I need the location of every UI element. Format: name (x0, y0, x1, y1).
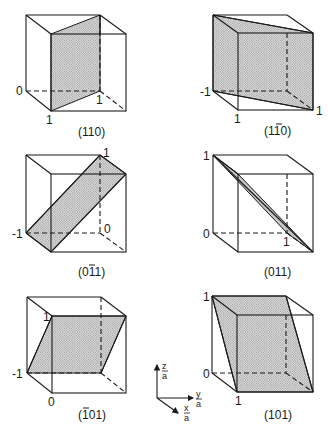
intercept-label: 1 (43, 310, 50, 324)
intercept-label: 1 (203, 290, 210, 304)
intercept-label: -1 (200, 85, 211, 99)
intercept-label: 0 (16, 84, 23, 98)
miller-caption: (011) (264, 265, 291, 279)
intercept-label: 1 (283, 235, 290, 249)
miller-caption: (101) (78, 408, 106, 422)
intercept-label: 1 (103, 146, 110, 160)
plane-bar101 (27, 316, 126, 373)
intercept-label: 1 (96, 93, 103, 107)
plane-110 (51, 15, 100, 111)
panel-101: 1 0 1 (101) (203, 290, 313, 422)
intercept-label: 1 (235, 394, 242, 408)
panel-011: 1 0 1 (011) (203, 149, 313, 279)
panel-1bar10: -1 1 1 (110) (200, 15, 323, 138)
intercept-label: 0 (48, 395, 55, 409)
miller-indices-diagram: 0 1 1 (110) -1 1 1 (110) (0, 0, 328, 435)
x-axis-denominator: a (184, 413, 189, 423)
intercept-label: 1 (234, 112, 241, 126)
intercept-label: 0 (203, 227, 210, 241)
panel-0bar11: 1 -1 0 (011) (12, 146, 126, 279)
plane-101 (212, 296, 313, 392)
z-axis-label: z (162, 361, 167, 371)
miller-caption: (110) (264, 124, 291, 138)
intercept-label: 1 (316, 104, 323, 118)
intercept-label: 0 (203, 367, 210, 381)
miller-caption: (101) (264, 408, 292, 422)
intercept-label: -1 (12, 227, 23, 241)
axes-legend: z a y a x a (157, 361, 202, 423)
cube-edges (213, 155, 313, 252)
plane-1bar10 (213, 15, 313, 110)
plane-0bar11 (26, 155, 126, 252)
y-axis-denominator: a (196, 399, 201, 409)
miller-caption: (110) (78, 125, 105, 139)
panel-bar101: 1 -1 0 (101) (12, 297, 126, 422)
panel-110: 0 1 1 (110) (16, 15, 126, 139)
intercept-label: 1 (203, 149, 210, 163)
x-axis-label: x (184, 403, 189, 413)
y-axis-label: y (196, 389, 201, 399)
intercept-label: 1 (46, 113, 53, 127)
intercept-label: 0 (104, 222, 111, 236)
miller-caption: (011) (78, 265, 105, 279)
intercept-label: -1 (12, 367, 23, 381)
x-axis-arrow (157, 398, 178, 413)
z-axis-denominator: a (162, 371, 167, 381)
